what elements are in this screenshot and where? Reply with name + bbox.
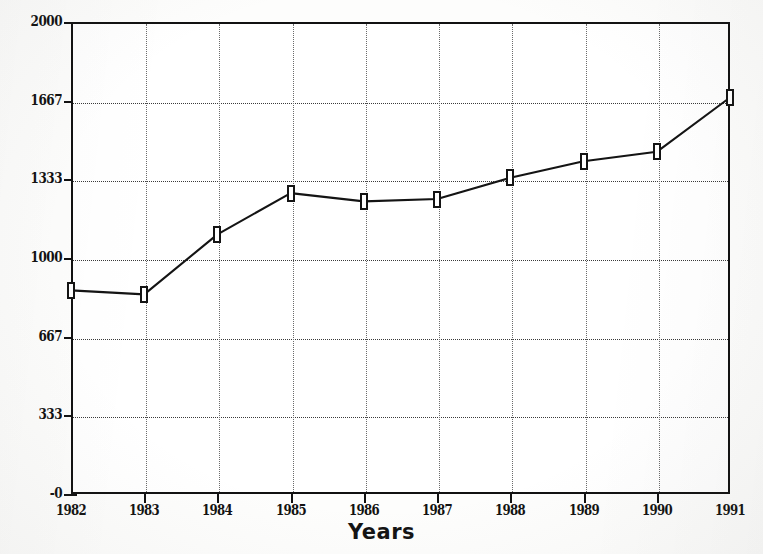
- data-point-marker: [580, 153, 588, 170]
- data-series-line: [0, 0, 763, 554]
- data-point-marker: [360, 193, 368, 210]
- data-point-marker: [213, 226, 221, 243]
- data-point-marker: [653, 143, 661, 160]
- data-point-marker: [287, 185, 295, 202]
- data-point-marker: [67, 282, 75, 299]
- data-point-marker: [726, 89, 734, 106]
- data-point-marker: [433, 191, 441, 208]
- x-axis-title: Years: [0, 520, 763, 544]
- line-chart-figure: -03336671000133316672000 198219831984198…: [0, 0, 763, 554]
- data-point-marker: [506, 169, 514, 186]
- data-point-marker: [140, 286, 148, 303]
